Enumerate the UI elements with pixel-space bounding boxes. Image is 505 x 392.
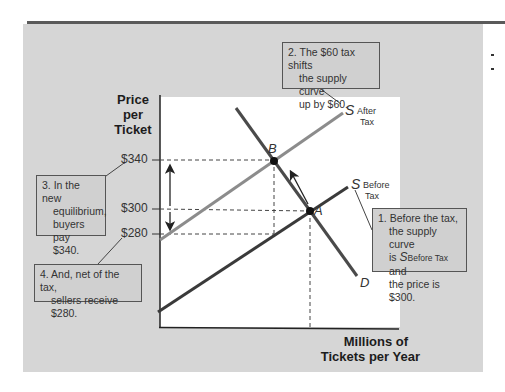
tick-300: $300 [121,201,148,215]
point-b-label: B [268,141,277,156]
x-axis-title: Millions of Tickets per Year [300,334,420,364]
point-a [306,207,314,215]
callout-sellers-receive: 4. And, net of the tax, sellers receive … [34,264,142,302]
callout-before-tax: 1. Before the tax, the supply curve is S… [372,208,467,272]
s-before-tax-label: S Before Tax [351,175,360,193]
point-b [270,157,278,165]
tick-340: $340 [121,152,148,166]
callout-tax-shift: 2. The $60 tax shifts the supply curve u… [282,42,380,89]
x-axis [159,328,399,330]
tick-280: $280 [121,226,148,240]
y-axis-title: Price per Ticket [108,92,158,137]
callout-buyers-pay: 3. In the new equilibrium, buyers pay $3… [36,175,106,236]
demand-label: D [360,275,369,290]
point-a-label: A [314,203,323,218]
